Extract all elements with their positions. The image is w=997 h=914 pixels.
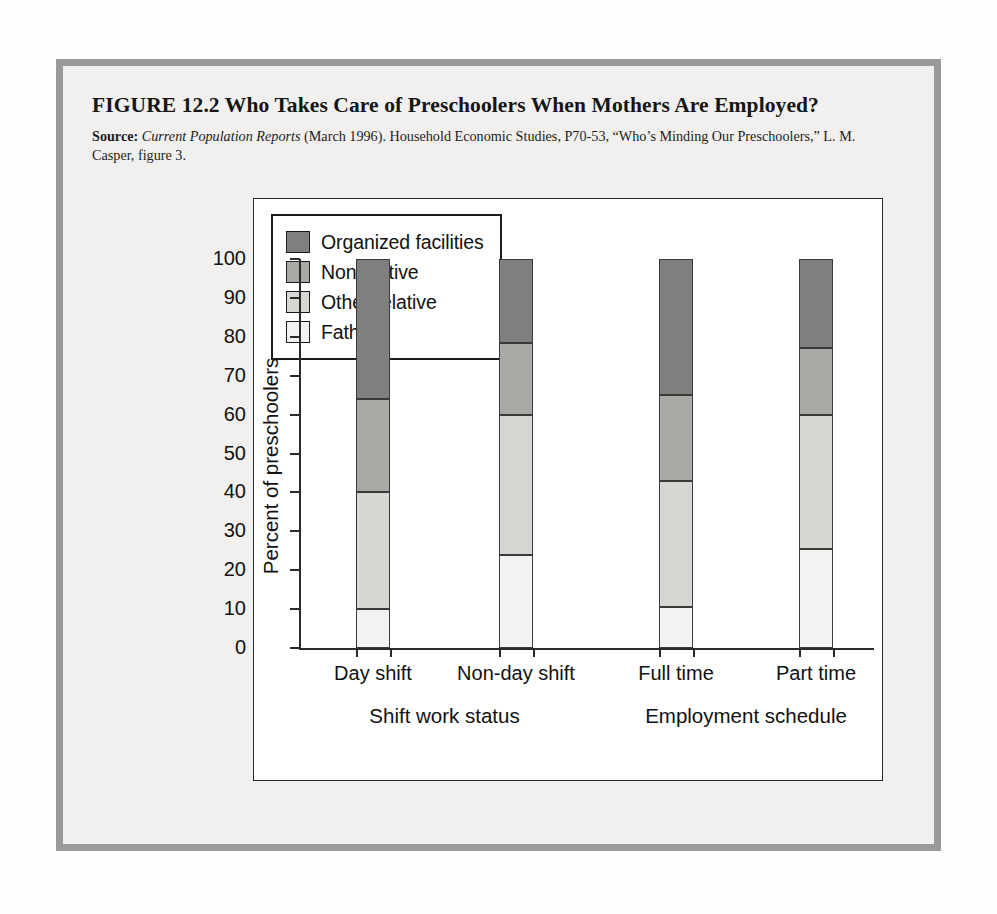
bar-segment: [356, 609, 390, 648]
y-axis-tick-label: 40: [186, 480, 246, 503]
bar-day-shift: [356, 259, 390, 648]
y-axis-tick-label: 50: [186, 442, 246, 465]
figure-screenshot: FIGURE 12.2 Who Takes Care of Preschoole…: [0, 0, 997, 914]
x-axis-category-label: Part time: [776, 662, 856, 685]
y-axis-tick: [290, 453, 300, 455]
figure-heading: FIGURE 12.2 Who Takes Care of Preschoole…: [92, 93, 907, 164]
y-axis-tick: [290, 491, 300, 493]
chart-axes: Percent of preschoolers 0102030405060708…: [254, 199, 882, 780]
x-axis-tick: [659, 648, 661, 657]
y-axis-tick: [290, 414, 300, 416]
bar-segment: [799, 549, 833, 648]
figure-source: Source: Current Population Reports (Marc…: [92, 127, 882, 164]
y-axis-tick: [290, 530, 300, 532]
bar-segment: [799, 415, 833, 549]
x-axis-group-label: Shift work status: [369, 704, 519, 728]
bar-segment: [659, 481, 693, 607]
y-axis-tick-label: 60: [186, 403, 246, 426]
y-axis-title: Percent of preschoolers: [259, 286, 283, 646]
y-axis-tick: [290, 647, 300, 649]
source-publication: Current Population Reports: [142, 128, 301, 144]
figure-body: FIGURE 12.2 Who Takes Care of Preschoole…: [70, 73, 927, 837]
bar-segment: [659, 607, 693, 648]
x-axis-line: [299, 648, 874, 650]
bar-segment: [799, 348, 833, 414]
y-axis-tick: [290, 297, 300, 299]
figure-frame-border: FIGURE 12.2 Who Takes Care of Preschoole…: [56, 59, 941, 851]
y-axis-tick-label: 100: [186, 247, 246, 270]
figure-title: FIGURE 12.2 Who Takes Care of Preschoole…: [92, 93, 907, 118]
y-axis-tick-label: 10: [186, 597, 246, 620]
y-axis-tick: [290, 258, 300, 260]
x-axis-category-label: Day shift: [334, 662, 412, 685]
bar-segment: [659, 259, 693, 395]
y-axis-tick-label: 30: [186, 519, 246, 542]
x-axis-tick: [356, 648, 358, 657]
bar-segment: [356, 259, 390, 399]
y-axis-tick: [290, 569, 300, 571]
x-axis-tick: [499, 648, 501, 657]
x-axis-group-label: Employment schedule: [645, 704, 847, 728]
x-axis-tick: [693, 648, 695, 657]
y-axis-tick: [290, 608, 300, 610]
y-axis-tick-label: 20: [186, 558, 246, 581]
y-axis-tick: [290, 375, 300, 377]
bar-segment: [499, 555, 533, 648]
figure-outer-frame: FIGURE 12.2 Who Takes Care of Preschoole…: [52, 55, 945, 855]
source-label: Source:: [92, 128, 138, 144]
bar-segment: [659, 395, 693, 481]
y-axis-tick-label: 90: [186, 286, 246, 309]
y-axis-tick-label: 70: [186, 364, 246, 387]
bar-segment: [499, 415, 533, 555]
bar-non-day-shift: [499, 259, 533, 648]
y-axis-tick-label: 80: [186, 325, 246, 348]
bar-segment: [356, 399, 390, 492]
bar-part-time: [799, 259, 833, 648]
bar-segment: [799, 259, 833, 348]
bar-segment: [356, 492, 390, 609]
y-axis-tick-label: 0: [186, 636, 246, 659]
x-axis-tick: [533, 648, 535, 657]
bar-segment: [499, 343, 533, 415]
y-axis-tick: [290, 336, 300, 338]
x-axis-category-label: Full time: [638, 662, 714, 685]
chart-plot-panel: Organized facilitiesNonrelativeOther rel…: [253, 198, 883, 781]
x-axis-tick: [390, 648, 392, 657]
x-axis-tick: [799, 648, 801, 657]
x-axis-category-label: Non-day shift: [457, 662, 575, 685]
x-axis-tick: [833, 648, 835, 657]
bar-full-time: [659, 259, 693, 648]
bar-segment: [499, 259, 533, 343]
